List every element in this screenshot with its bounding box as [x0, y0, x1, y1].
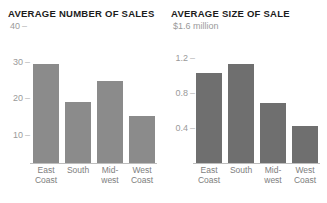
x-axis-baseline-secondary	[193, 163, 320, 164]
x-axis-label-midwest-secondary-line1: Mid-	[265, 165, 282, 175]
bar-slot-east-coast-secondary	[196, 46, 222, 163]
x-axis-label-east-coast-line2: Coast	[31, 175, 61, 185]
bar-west-coast-secondary	[292, 126, 318, 163]
bar-slot-south	[65, 46, 91, 163]
x-axis-label-east-coast: East Coast	[31, 165, 61, 191]
bar-slot-midwest	[97, 46, 123, 163]
bar-midwest	[97, 81, 123, 163]
x-axis-label-east-coast-secondary-line2: Coast	[194, 175, 224, 185]
x-axis-label-west-coast-line2: Coast	[127, 175, 157, 185]
two-panel-bar-chart-figure: AVERAGE NUMBER OF SALES 40– 30– 20– 10–	[0, 0, 327, 203]
plot-area-secondary: 1.2– 0.8– 0.4–	[163, 0, 326, 203]
y-axis-tick-10-dash: –	[23, 130, 30, 140]
bar-east-coast-secondary	[196, 73, 222, 163]
x-axis-labels: East Coast South Mid- west West Coast	[31, 165, 157, 191]
bar-south	[65, 102, 91, 163]
bar-south-secondary	[228, 64, 254, 163]
x-axis-label-midwest: Mid- west	[95, 165, 125, 191]
y-axis-tick-0-4: 0.4–	[173, 123, 195, 133]
x-axis-label-west-coast-secondary-line1: West	[295, 165, 314, 175]
y-axis-tick-20: 20–	[10, 93, 30, 103]
x-axis-label-south-secondary: South	[226, 165, 256, 191]
plot-area: 30– 20– 10–	[0, 0, 163, 203]
x-axis-label-east-coast-line1: East	[37, 165, 54, 175]
bar-slot-midwest-secondary	[260, 46, 286, 163]
bar-midwest-secondary	[260, 103, 286, 163]
y-axis-tick-30-label: 30	[13, 57, 23, 67]
chart-panel-average-size-of-sale: AVERAGE SIZE OF SALE $1.6 million 1.2– 0…	[163, 0, 326, 203]
y-axis-tick-20-dash: –	[23, 93, 30, 103]
y-axis-tick-0-8-label: 0.8	[175, 88, 188, 98]
y-axis-tick-0-8: 0.8–	[173, 88, 195, 98]
y-axis-tick-10-label: 10	[13, 130, 23, 140]
bar-series	[33, 46, 155, 163]
y-axis-tick-10: 10–	[10, 130, 30, 140]
y-axis-tick-1-2-dash: –	[188, 53, 195, 63]
x-axis-label-south-secondary-line1: South	[230, 165, 252, 175]
bar-west-coast	[129, 116, 155, 163]
x-axis-label-west-coast-secondary-line2: Coast	[290, 175, 320, 185]
x-axis-labels-secondary: East Coast South Mid- west West Coast	[194, 165, 320, 191]
y-axis-tick-0-4-label: 0.4	[175, 123, 188, 133]
y-axis-tick-30: 30–	[10, 57, 30, 67]
y-axis-tick-20-label: 20	[13, 93, 23, 103]
bar-series-secondary	[196, 46, 318, 163]
chart-panel-average-number-of-sales: AVERAGE NUMBER OF SALES 40– 30– 20– 10–	[0, 0, 163, 203]
x-axis-label-east-coast-secondary: East Coast	[194, 165, 224, 191]
bar-slot-south-secondary	[228, 46, 254, 163]
x-axis-label-midwest-secondary: Mid- west	[258, 165, 288, 191]
bar-slot-west-coast	[129, 46, 155, 163]
y-axis-tick-0-8-dash: –	[188, 88, 195, 98]
x-axis-label-midwest-line1: Mid-	[102, 165, 119, 175]
x-axis-label-midwest-line2: west	[95, 175, 125, 185]
bar-east-coast	[33, 64, 59, 163]
y-axis-tick-1-2: 1.2–	[173, 53, 195, 63]
x-axis-label-east-coast-secondary-line1: East	[200, 165, 217, 175]
y-axis-tick-1-2-label: 1.2	[175, 53, 188, 63]
x-axis-label-west-coast: West Coast	[127, 165, 157, 191]
bar-slot-east-coast	[33, 46, 59, 163]
y-axis-tick-30-dash: –	[23, 57, 30, 67]
x-axis-label-south-line1: South	[67, 165, 89, 175]
x-axis-label-south: South	[63, 165, 93, 191]
x-axis-label-midwest-secondary-line2: west	[258, 175, 288, 185]
y-axis-tick-0-4-dash: –	[188, 123, 195, 133]
x-axis-label-west-coast-secondary: West Coast	[290, 165, 320, 191]
bar-slot-west-coast-secondary	[292, 46, 318, 163]
x-axis-label-west-coast-line1: West	[132, 165, 151, 175]
x-axis-baseline	[30, 163, 157, 164]
